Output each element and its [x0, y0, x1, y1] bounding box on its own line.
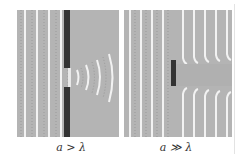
- left-panel-caption: a > λ: [41, 141, 101, 154]
- left-panel-aperture-diffraction: [17, 10, 119, 137]
- aperture-diffraction-diagram: [17, 10, 119, 137]
- right-panel-caption: a ≫ λ: [146, 141, 206, 154]
- obstacle-diagram: [124, 10, 232, 137]
- shadow-region: [176, 64, 232, 86]
- obstacle: [171, 60, 176, 86]
- right-panel-obstacle: [124, 10, 232, 137]
- aperture-gap: [68, 68, 71, 87]
- right-edge-divider: [234, 4, 235, 154]
